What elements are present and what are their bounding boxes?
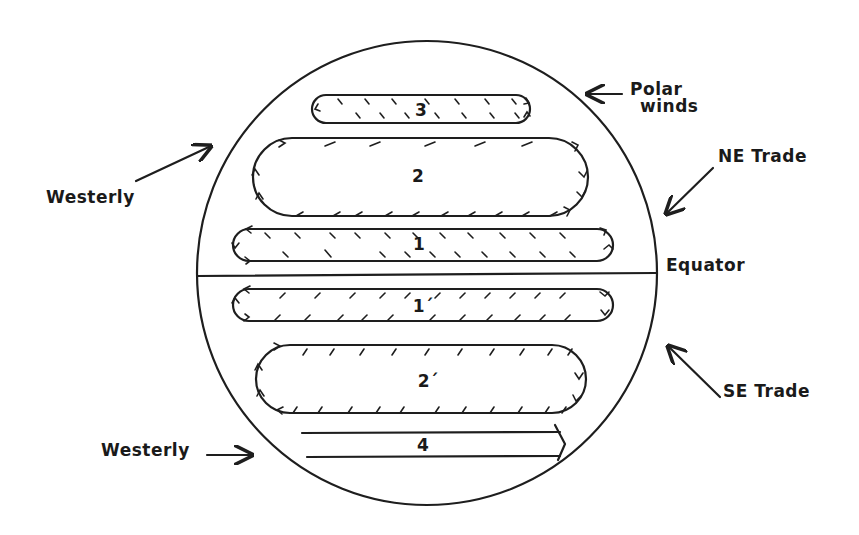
equator-line [197, 273, 656, 276]
cell-label-4: 4 [417, 435, 429, 455]
label-se-trade: SE Trade [723, 381, 810, 401]
label-westerly-north: Westerly [46, 187, 135, 207]
westerly-north-arrow-icon [136, 146, 211, 181]
cell-label-3: 3 [415, 100, 427, 120]
label-equator: Equator [666, 255, 745, 275]
cell-label-1: 1 [413, 234, 425, 254]
band-4 [302, 425, 565, 460]
se-trade-arrow-icon [668, 346, 720, 397]
atmospheric-circulation-diagram: 3 2 1 1´ 2´ 4 Polar winds NE Trade Weste… [0, 0, 859, 535]
cell-label-1-prime: 1´ [413, 296, 433, 316]
label-ne-trade: NE Trade [718, 146, 807, 166]
cell-label-2-prime: 2´ [418, 371, 438, 391]
cell-label-2: 2 [412, 166, 424, 186]
label-polar-winds-2: winds [640, 96, 698, 116]
ne-trade-arrow-icon [666, 168, 713, 214]
label-westerly-south: Westerly [101, 440, 190, 460]
